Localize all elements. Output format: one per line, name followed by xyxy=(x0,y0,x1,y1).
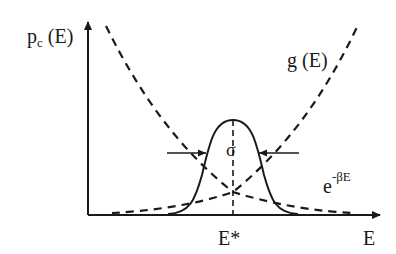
x-axis-label: E xyxy=(363,228,375,248)
y-axis-label-rest: (E) xyxy=(43,25,74,47)
peak-label: E* xyxy=(218,228,240,248)
g-curve-label: g (E) xyxy=(287,50,328,70)
boltzmann-label-exponent: -βE xyxy=(332,169,351,184)
boltzmann-label: e-βE xyxy=(323,176,351,196)
y-axis-label-main: p xyxy=(27,25,37,47)
boltzmann-label-base: e xyxy=(323,175,332,197)
y-axis-label-sub: c xyxy=(37,35,43,50)
y-axis-label: pc (E) xyxy=(27,26,73,46)
sigma-label: σ xyxy=(226,141,236,159)
